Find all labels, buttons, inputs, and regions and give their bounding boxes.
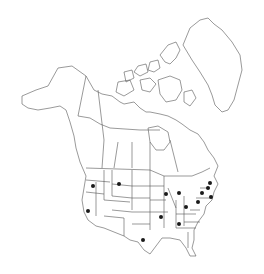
occurrence-dot-california [86,209,90,213]
occurrence-dot-michigan [177,191,181,195]
occurrence-dot-new-york [200,191,204,195]
occurrence-dot-pennsylvania [196,200,200,204]
occurrence-dot-ohio [184,205,188,209]
occurrence-dot-missouri [159,215,163,219]
occurrence-dot-tennessee [177,222,181,226]
occurrence-dot-oregon [91,184,95,188]
occurrence-dot-texas [141,238,145,242]
occurrence-dot-montana [117,182,121,186]
occurrence-dot-vermont [206,186,210,190]
map-outline [0,0,264,274]
occurrence-dot-wisconsin [164,192,168,196]
occurrence-dot-maine [208,181,212,185]
distribution-map [0,0,264,274]
occurrence-dot-massachusetts [209,195,213,199]
